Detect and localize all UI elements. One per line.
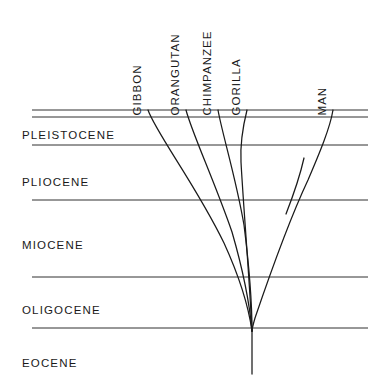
tree-drawing-canvas [0,0,392,388]
epoch-label-pliocene: PLIOCENE [22,177,89,189]
epoch-label-miocene: MIOCENE [22,240,84,252]
taxon-label-man: MAN [317,87,329,116]
branch-gorilla-lineage [241,110,252,331]
lineage-branches [148,110,333,374]
epoch-boundary-lines [32,110,368,328]
branch-extinct-side-branch [286,158,304,214]
taxon-label-orangutan: ORANGUTAN [170,33,182,115]
branch-gibbon-lineage [148,110,252,331]
taxon-label-gorilla: GORILLA [231,58,243,115]
branch-orangutan-lineage [186,110,252,331]
epoch-label-pleistocene: PLEISTOCENE [22,130,115,142]
epoch-label-oligocene: OLIGOCENE [22,305,101,317]
epoch-label-eocene: EOCENE [22,358,77,370]
taxon-label-gibbon: GIBBON [132,64,144,115]
phylogenetic-tree-figure: PLEISTOCENEPLIOCENEMIOCENEOLIGOCENEEOCEN… [0,0,392,388]
branch-man-lineage [252,110,333,331]
branch-chimpanzee-lineage [218,110,252,331]
taxon-label-chimpanzee: CHIMPANZEE [202,30,214,115]
